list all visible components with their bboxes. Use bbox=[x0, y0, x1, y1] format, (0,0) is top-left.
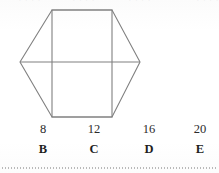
inscribed-rectangle bbox=[52, 10, 112, 117]
answer-choice-d[interactable]: D bbox=[130, 141, 168, 157]
document-figure-page: · · · · · · · · · · · · · · · · 8 12 16 … bbox=[0, 0, 219, 173]
hexagon-outline bbox=[20, 10, 140, 117]
answer-value-e: 20 bbox=[184, 121, 216, 137]
dotted-separator-rule bbox=[2, 167, 217, 169]
answer-value-d: 16 bbox=[130, 121, 168, 137]
answer-values-row: 8 12 16 20 bbox=[0, 121, 219, 137]
answer-choice-e[interactable]: E bbox=[184, 141, 216, 157]
answer-choice-c[interactable]: C bbox=[75, 141, 113, 157]
answer-choice-row: B C D E bbox=[0, 141, 219, 157]
answer-choice-b[interactable]: B bbox=[24, 141, 62, 157]
answer-value-b: 8 bbox=[24, 121, 62, 137]
answer-value-c: 12 bbox=[75, 121, 113, 137]
